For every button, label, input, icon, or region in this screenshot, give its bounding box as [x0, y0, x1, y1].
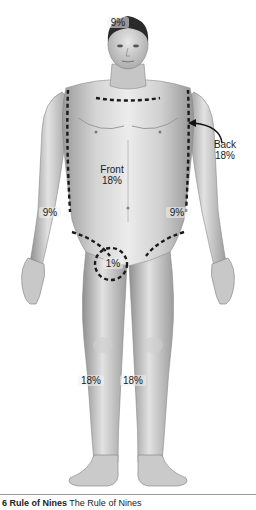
head-label: 9% [107, 17, 129, 28]
left-leg-label: 18% [78, 375, 104, 386]
back-label: Back 18% [210, 139, 240, 161]
right-arm-label: 9% [166, 207, 188, 218]
right-leg [129, 250, 174, 462]
front-label-value: 18% [96, 175, 128, 186]
right-foot [138, 455, 187, 486]
caption-divider [0, 494, 256, 495]
left-hand [22, 258, 45, 304]
left-leg [82, 250, 127, 462]
caption-text: The Rule of Nines [69, 498, 141, 508]
back-label-name: Back [210, 139, 240, 150]
left-arm-label: 9% [39, 207, 61, 218]
right-leg-label: 18% [120, 375, 146, 386]
genitals-label: 1% [103, 258, 123, 269]
right-hand [211, 258, 234, 304]
caption-prefix: 6 Rule of Nines [2, 498, 67, 508]
front-label: Front 18% [96, 164, 128, 186]
figure-caption: 6 Rule of Nines The Rule of Nines [2, 498, 256, 510]
back-label-value: 18% [210, 150, 240, 161]
front-label-name: Front [96, 164, 128, 175]
left-foot [69, 455, 118, 486]
